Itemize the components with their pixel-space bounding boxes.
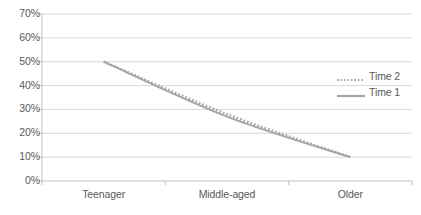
legend-item-time-2: Time 2: [336, 68, 418, 84]
legend-swatch-dotted-icon: [336, 71, 366, 81]
y-axis-tick-label: 50%: [4, 56, 40, 67]
legend-swatch-solid-icon: [336, 87, 366, 97]
chart-legend: Time 2 Time 1: [336, 68, 418, 100]
x-axis-tick-label: Middle-aged: [177, 189, 277, 200]
x-axis-tick-label: Older: [300, 189, 400, 200]
legend-label-time-1: Time 1: [369, 87, 400, 98]
y-axis-tick-label: 70%: [4, 8, 40, 19]
legend-label-time-2: Time 2: [369, 71, 400, 82]
y-axis-tick-label: 40%: [4, 80, 40, 91]
x-tickmarks-group: [42, 181, 412, 185]
chart-container: 70%60%50%40%30%20%10%0% TeenagerMiddle-a…: [0, 0, 421, 215]
legend-item-time-1: Time 1: [336, 84, 418, 100]
y-axis-tick-label: 60%: [4, 32, 40, 43]
y-axis-tick-label: 0%: [4, 175, 40, 186]
y-axis-tick-label: 20%: [4, 127, 40, 138]
y-axis-tick-label: 10%: [4, 151, 40, 162]
chart-plot-area: [0, 0, 421, 215]
y-axis-tick-label: 30%: [4, 103, 40, 114]
y-axis-labels: 70%60%50%40%30%20%10%0%: [0, 0, 40, 215]
x-axis-tick-label: Teenager: [54, 189, 154, 200]
